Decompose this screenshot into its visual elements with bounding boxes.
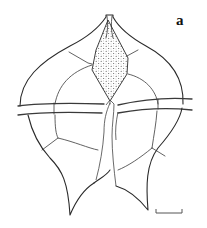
dinoflagellate-figure: a xyxy=(0,0,207,228)
cingulum-girdle xyxy=(18,98,192,115)
panel-label: a xyxy=(176,13,184,28)
cell-drawing xyxy=(0,0,207,228)
scale-bar xyxy=(156,209,182,213)
stippled-rhomboid-plate xyxy=(92,20,128,101)
hypotheca-outline xyxy=(28,108,182,215)
